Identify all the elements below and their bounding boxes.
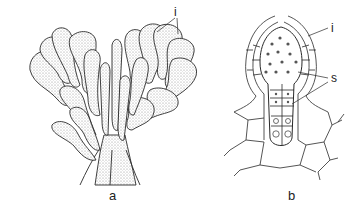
panel-b-drawing [220, 0, 355, 212]
panel-a-drawing [0, 0, 220, 212]
label-i-panel-b: i [331, 22, 334, 34]
label-s-panel-b: s [331, 72, 337, 84]
caption-a: a [109, 189, 116, 202]
cell-section-illustration [220, 0, 355, 212]
thallus-illustration [0, 0, 220, 212]
caption-b: b [288, 189, 295, 202]
label-i-panel-a: i [174, 6, 177, 18]
